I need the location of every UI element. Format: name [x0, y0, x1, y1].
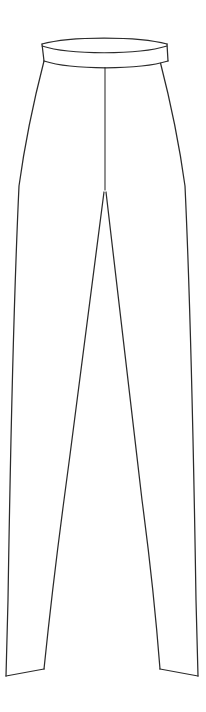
trouser-technical-flat: [0, 0, 206, 712]
garment-body-fill: [6, 61, 198, 676]
garment-body-group: [6, 61, 198, 676]
illustration-canvas: [0, 0, 206, 712]
waistband-group: [42, 38, 168, 68]
